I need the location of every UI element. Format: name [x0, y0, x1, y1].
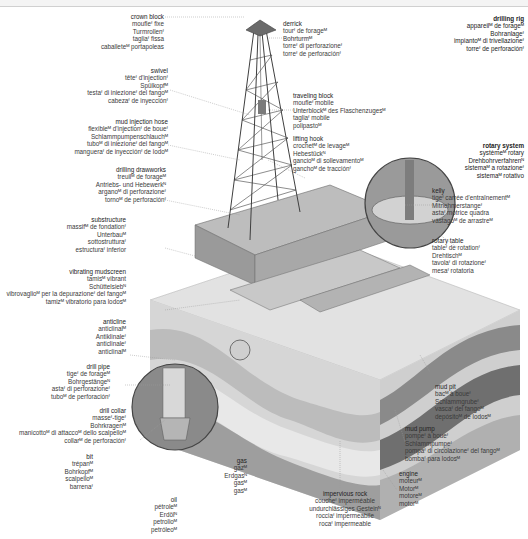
term-it: manicottoᴹ di attaccoᴹ dello scalpelloᴹ — [19, 429, 126, 436]
term-en: swivel — [87, 67, 168, 74]
term-de: Bohrkragenᴹ — [19, 422, 126, 429]
term-en: impervious rock — [290, 490, 400, 497]
term-fr: masseᶠ-tigeᶠ — [19, 414, 126, 421]
borehole-detail — [230, 340, 250, 360]
term-en: substructure — [67, 216, 126, 223]
term-de: Erdölᴺ — [151, 511, 177, 518]
label-anticline: anticline anticlinalᴹ Antiklinaleᶠ antic… — [96, 318, 126, 355]
label-vibrating-mudscreen: vibrating mudscreen tamisᴹ vibrant Schüt… — [6, 268, 126, 305]
term-en: traveling block — [293, 92, 386, 99]
label-mud-pump: mud pump pompeᶠ à boueᶠ Schlammpumpeᶠ po… — [405, 425, 500, 462]
label-bit: bit trépanᴹ Bohrkopfᴹ scalpelloᴹ barrena… — [65, 453, 93, 490]
term-it: vascaᶠ del fangoᴹ — [435, 405, 491, 412]
term-en: gas — [224, 457, 247, 464]
term-es: caballeteᴹ portapoleas — [101, 43, 164, 50]
crown-block — [246, 20, 276, 36]
term-de: Drehbohrverfahrenᴺ — [465, 157, 524, 164]
term-it: motoreᴹ — [399, 492, 422, 499]
label-rotary-system: rotary system systèmeᴹ rotary Drehbohrve… — [465, 142, 524, 179]
term-es: estructuraᶠ inferior — [67, 246, 126, 253]
term-it: torreᶠ di perforazioneᶠ — [283, 42, 342, 49]
term-fr: tigeᶠ carrée d'entraînementᴹ — [432, 194, 510, 201]
term-es: sistemaᴹ rotativo — [465, 172, 524, 179]
term-de: Turmrollenᶠ — [101, 28, 164, 35]
term-fr: flexibleᴹ d'injectionᶠ de boueᶠ — [74, 125, 168, 132]
term-fr: massifᴹ de fondationᶠ — [67, 223, 126, 230]
label-drilling-drawworks: drilling drawworks treuilᴹ de forageᴹ An… — [96, 166, 166, 203]
term-en: drill collar — [19, 407, 126, 414]
term-it: sottostrutturaᶠ — [67, 238, 126, 245]
term-es: gasᴹ — [224, 487, 247, 494]
term-es: tamizᴹ vibratorio para lodosᴹ — [6, 298, 126, 305]
term-de: Motorᴹ — [399, 485, 422, 492]
label-mud-pit: mud pit bacᴹ à boueᶠ Schlammgrubeᶠ vasca… — [435, 383, 491, 420]
term-de: Schlammpumpenschlauchᴹ — [74, 133, 168, 140]
term-es: collarᴹ de perforaciónᶠ — [19, 437, 126, 444]
label-drill-collar: drill collar masseᶠ-tigeᶠ Bohrkragenᴹ ma… — [19, 407, 126, 444]
term-it: tagliaᶠ fissa — [101, 35, 164, 42]
term-es: polipastoᴹ — [293, 122, 386, 129]
term-it: petrolioᴹ — [151, 518, 177, 525]
term-de: Spülkopfᴹ — [87, 82, 168, 89]
term-es: anticlinalᴹ — [96, 348, 126, 355]
term-de: undurchlässiges Gesteinᴺ — [290, 505, 400, 512]
term-en: anticline — [96, 318, 126, 325]
term-en: kelly — [432, 187, 510, 194]
term-it: gancioᴹ di sollevamentoᴹ — [293, 157, 363, 164]
term-de: Mitnehmerstangeᶠ — [432, 202, 510, 209]
term-es: vástagoᴹ de arrastreᴹ — [432, 217, 510, 224]
term-en: mud pit — [435, 383, 491, 390]
drill-bit-detail — [132, 364, 218, 450]
term-es: barrenaᶠ — [65, 483, 93, 490]
term-en: vibrating mudscreen — [6, 268, 126, 275]
term-en: derrick — [283, 20, 342, 27]
term-it: arganoᴹ di perforazioneᶠ — [96, 188, 166, 195]
term-en: rotary table — [432, 237, 486, 244]
term-es: depósitoᴹ de lodosᴹ — [435, 413, 491, 420]
term-fr: têteᶠ d'injectionᶠ — [87, 74, 168, 81]
term-es: tuboᴹ de perforaciónᶠ — [51, 393, 110, 400]
term-en: drill pipe — [51, 363, 110, 370]
term-de: Unterbauᴹ — [67, 231, 126, 238]
term-es: cabezaᶠ de inyecciónᶠ — [87, 97, 168, 104]
term-de: Hebestückᴺ — [293, 150, 363, 157]
label-lifting-hook: lifting hook crochetᴹ de levageᴹ Hebestü… — [293, 135, 363, 172]
term-fr: moufleᶠ mobile — [293, 99, 386, 106]
term-fr: tableᶠ de rotationᶠ — [432, 244, 486, 251]
term-fr: coucheᶠ imperméable — [290, 497, 400, 504]
term-it: astaᶠ motrice quadra — [432, 209, 510, 216]
label-gas: gas gazᴹ Erdgasᴺ gasᴹ gasᴹ — [224, 457, 247, 494]
term-fr: gazᴹ — [224, 464, 247, 471]
term-es: mesaᶠ rotatoria — [432, 267, 486, 274]
term-en: drilling drawworks — [96, 166, 166, 173]
term-fr: anticlinalᴹ — [96, 325, 126, 332]
term-fr: pompeᶠ à boueᶠ — [405, 432, 500, 439]
term-fr: moufleᶠ fixe — [101, 20, 164, 27]
term-en: engine — [399, 470, 422, 477]
term-de: Bohrgestängeᴺ — [51, 378, 110, 385]
term-en: bit — [65, 453, 93, 460]
term-de: Schlammpumpeᶠ — [405, 440, 500, 447]
term-de: Schüttelsiebᴺ — [6, 283, 126, 290]
term-it: anticlinaleᶠ — [96, 340, 126, 347]
term-it: impiantoᴹ di trivellazioneᶠ — [454, 37, 524, 44]
term-fr: crochetᴹ de levageᴹ — [293, 142, 363, 149]
label-engine: engine moteurᴹ Motorᴹ motoreᴹ motorᴹ — [399, 470, 422, 507]
label-impervious-rock: impervious rock coucheᶠ imperméable undu… — [290, 490, 400, 527]
term-de: Bohrturmᴹ — [283, 35, 342, 42]
term-es: bombaᶠ para lodosᴹ — [405, 455, 500, 462]
term-es: torreᶠ de perforaciónᶠ — [283, 50, 342, 57]
term-it: vibrovaglioᴹ per la depurazioneᶠ del fan… — [6, 290, 126, 297]
label-substructure: substructure massifᴹ de fondationᶠ Unter… — [67, 216, 126, 253]
term-es: motorᴹ — [399, 500, 422, 507]
term-es: rocaᶠ impermeable — [290, 520, 400, 527]
term-en: mud injection hose — [74, 118, 168, 125]
term-fr: tigeᶠ de forageᴹ — [51, 370, 110, 377]
term-it: rocciaᶠ impermeabile — [290, 512, 400, 519]
term-fr: tamisᴹ vibrant — [6, 275, 126, 282]
term-it: tuboᴹ di iniezioneᶠ del fangoᴹ — [74, 140, 168, 147]
term-de: Antiklinaleᶠ — [96, 333, 126, 340]
term-it: astaᶠ di perforazioneᶠ — [51, 385, 110, 392]
term-fr: appareilᴹ de forageᴹ — [454, 22, 524, 29]
term-it: gasᴹ — [224, 479, 247, 486]
